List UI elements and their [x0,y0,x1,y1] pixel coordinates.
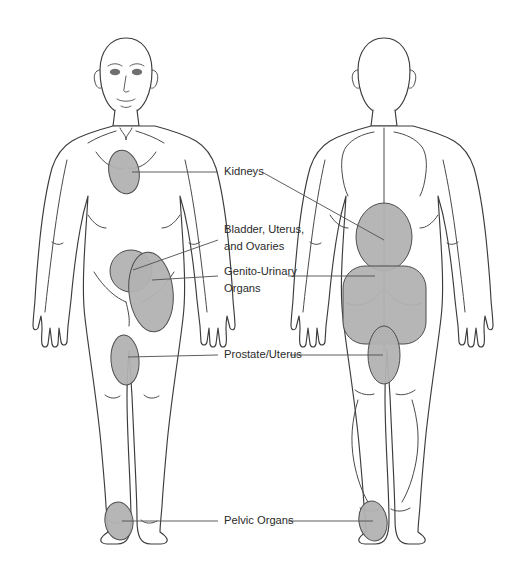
label-bladder-line-1: Bladder, Uterus, [224,223,304,235]
label-bladder-line-2: and Ovaries [224,240,285,252]
label-prostate-uterus[interactable]: Prostate/Uterus [224,348,302,360]
body-map-svg: Kidneys Bladder, Uterus, and Ovaries Gen… [0,0,514,581]
label-prostate-line-1: Prostate/Uterus [224,348,302,360]
back-head [358,38,410,114]
pain-region-back-kidneys[interactable] [356,203,412,271]
label-pelvic-line-1: Pelvic Organs [224,514,294,526]
label-genito-line-1: Genito-Urinary [224,265,297,277]
label-pelvic-organs[interactable]: Pelvic Organs [224,514,294,526]
front-neck [113,110,139,126]
label-kidneys[interactable]: Kidneys [224,165,264,177]
front-right-eye [132,69,142,75]
referred-pain-diagram: Kidneys Bladder, Uterus, and Ovaries Gen… [0,0,514,581]
label-kidneys-line-1: Kidneys [224,165,264,177]
back-neck [371,110,397,126]
label-genito-line-2: Organs [224,282,261,294]
front-left-eye [110,69,120,75]
